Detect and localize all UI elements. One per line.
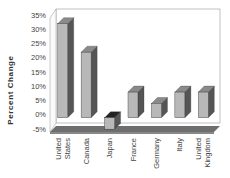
side-wall: [50, 9, 56, 132]
y-tick-label: 10%: [31, 82, 46, 91]
category-label: States: [63, 138, 72, 160]
y-tick-label: 20%: [31, 53, 46, 62]
category-label: Italy: [175, 138, 184, 152]
category-label: United: [54, 138, 63, 160]
bar: [81, 46, 97, 118]
category-label: Canada: [82, 137, 91, 164]
y-tick-label: 0%: [35, 110, 46, 119]
y-tick-label: 25%: [31, 39, 46, 48]
y-tick-label: -5%: [33, 125, 47, 134]
y-axis-ticks: 35%30%25%20%15%10%5%0%-5%: [31, 11, 46, 134]
x-axis-categories: UnitedStatesCanadaJapanFranceGermanyItal…: [54, 137, 213, 169]
y-tick-label: 30%: [31, 25, 46, 34]
y-tick-label: 15%: [31, 68, 46, 77]
bar-chart: 35%30%25%20%15%10%5%0%-5% Percent Change…: [0, 0, 230, 178]
category-label: Kingdom: [203, 138, 212, 168]
y-tick-label: 35%: [31, 11, 46, 20]
bar: [128, 86, 144, 118]
bar: [58, 18, 74, 118]
floor-edge: [50, 132, 214, 134]
bar: [198, 86, 214, 118]
category-label: United: [194, 138, 203, 160]
floor: [50, 126, 220, 132]
y-tick-label: 5%: [35, 96, 46, 105]
category-label: Germany: [152, 138, 161, 169]
bar: [175, 86, 191, 118]
y-axis-label: Percent Change: [6, 55, 15, 124]
category-label: France: [129, 138, 138, 161]
category-label: Japan: [105, 138, 114, 158]
